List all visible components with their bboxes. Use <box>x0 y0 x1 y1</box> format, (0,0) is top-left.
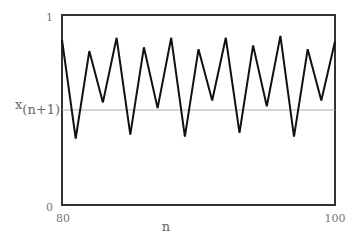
y-tick-max: 1 <box>46 11 53 24</box>
y-axis-label-subscript: (n+1) <box>22 102 60 117</box>
x-tick-max: 100 <box>325 212 346 225</box>
x-axis-label: n <box>162 219 171 234</box>
chart: 1 0 80 100 n x(n+1) <box>0 0 358 238</box>
x-tick-min: 80 <box>56 212 70 225</box>
y-tick-min: 0 <box>46 201 53 214</box>
data-series-line <box>62 36 335 139</box>
y-axis-label: x(n+1) <box>15 97 60 117</box>
